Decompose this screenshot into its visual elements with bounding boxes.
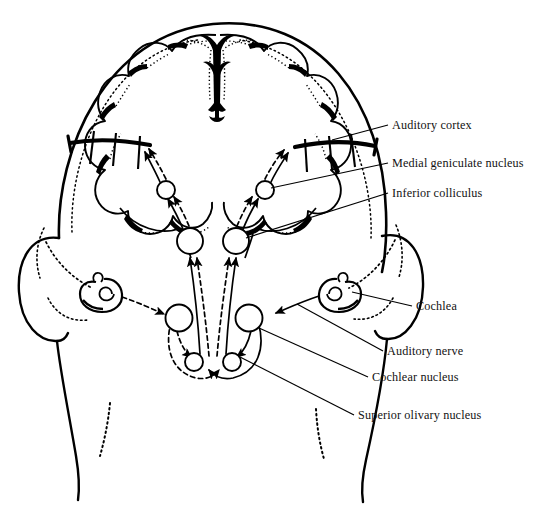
left-gyrus-dots-3: [116, 84, 130, 106]
right-gyrus-dots-4: [315, 134, 326, 159]
fissure-right-top-dots: [225, 40, 251, 48]
skull-outline: [59, 23, 386, 272]
cochlea-right-shell: [319, 279, 361, 312]
label-cochlear-nucleus: Cochlear nucleus: [372, 370, 459, 384]
acoustic-radiation-left-solid: [145, 152, 160, 182]
left-ear-outline: [19, 238, 68, 341]
label-auditory-cortex: Auditory cortex: [392, 118, 472, 132]
label-auditory-nerve: Auditory nerve: [387, 344, 463, 358]
auditory-cortex-left-cap: [68, 136, 71, 152]
auditory-pathway-figure: Auditory cortex Medial geniculate nucleu…: [0, 0, 540, 524]
acoustic-radiation-right-solid: [271, 153, 288, 182]
superior-olivary-nucleus-right-node: [223, 353, 241, 371]
left-gyrus-dots-2: [147, 54, 169, 68]
cochlear-nucleus-right-node: [236, 305, 263, 332]
auditory-cortex-left-bar: [70, 140, 150, 145]
auditory-nerve-left: [122, 297, 164, 314]
left-ear-canal: [46, 242, 92, 288]
right-gyrus-dots-2: [267, 54, 289, 68]
neck-left-outline: [57, 341, 79, 500]
auditory-cortex-left-tick-1: [90, 131, 94, 164]
superior-olivary-nucleus-left-node: [185, 353, 203, 371]
left-hemisphere-outline: [85, 35, 216, 234]
inferior-colliculus-right-node: [223, 228, 249, 254]
right-gyrus-dots-1: [226, 41, 250, 45]
leader-inferior-colliculus: [246, 193, 388, 238]
label-inferior-colliculus: Inferior colliculus: [392, 186, 483, 200]
left-sulcus-mark-5: [124, 214, 143, 233]
cn-to-son-left-solid: [177, 331, 191, 357]
cn-to-son-right-solid: [237, 331, 251, 357]
ic-to-mgn-right-dashed: [237, 197, 252, 226]
cochlea-left-spiral: [99, 287, 114, 300]
auditory-cortex-right-tick-1: [351, 134, 355, 167]
longitudinal-fissure: [183, 35, 251, 122]
leader-auditory-cortex: [332, 125, 388, 140]
left-ear-inner-fold: [37, 228, 44, 278]
cochlear-nucleus-left-node: [166, 305, 193, 332]
fissure-right-dots: [223, 50, 225, 100]
right-ear-outline: [375, 235, 423, 339]
inferior-colliculus-left-node: [177, 228, 203, 254]
right-gyrus-dots-3: [306, 84, 320, 106]
head-outline-group: [19, 23, 423, 502]
label-medial-geniculate-nucleus: Medial geniculate nucleus: [392, 156, 524, 170]
auditory-pathway-diagram: Auditory cortex Medial geniculate nucleu…: [0, 0, 540, 524]
medial-geniculate-nucleus-right-node: [256, 181, 274, 199]
cochlea-left-apex: [93, 273, 102, 282]
label-cochlea: Cochlea: [416, 299, 457, 313]
right-ear-inner-fold: [396, 225, 402, 277]
cochlea-right-apex: [338, 273, 347, 282]
auditory-cortex-group: [68, 131, 377, 172]
brain-group: [72, 35, 371, 258]
fissure-lower-trunk: [214, 78, 220, 100]
leader-superior-olivary-nucleus: [240, 357, 354, 415]
cochlea-group: [46, 240, 395, 312]
label-superior-olivary-nucleus: Superior olivary nucleus: [358, 408, 482, 422]
pathway-group: [122, 149, 319, 379]
left-sulcus-mark-2: [128, 64, 147, 77]
cochlea-left-shell: [80, 279, 122, 312]
neck-right-muscle-line: [316, 409, 324, 459]
cochlea-right-spiral: [327, 287, 342, 300]
cochlea-left-icon: [80, 273, 122, 312]
leader-cochlear-nucleus: [259, 328, 368, 377]
medial-geniculate-nucleus-left-node: [157, 181, 175, 199]
auditory-cortex-left-tick-2: [113, 133, 116, 166]
fissure-bottom-flare: [209, 112, 225, 122]
leader-medial-geniculate-nucleus: [271, 163, 388, 188]
right-sulcus-mark-5: [293, 214, 312, 233]
right-ear-canal: [349, 240, 395, 288]
fissure-left-dots: [209, 50, 211, 100]
auditory-cortex-right-bar: [295, 142, 375, 147]
neck-left-muscle-line: [100, 403, 110, 456]
